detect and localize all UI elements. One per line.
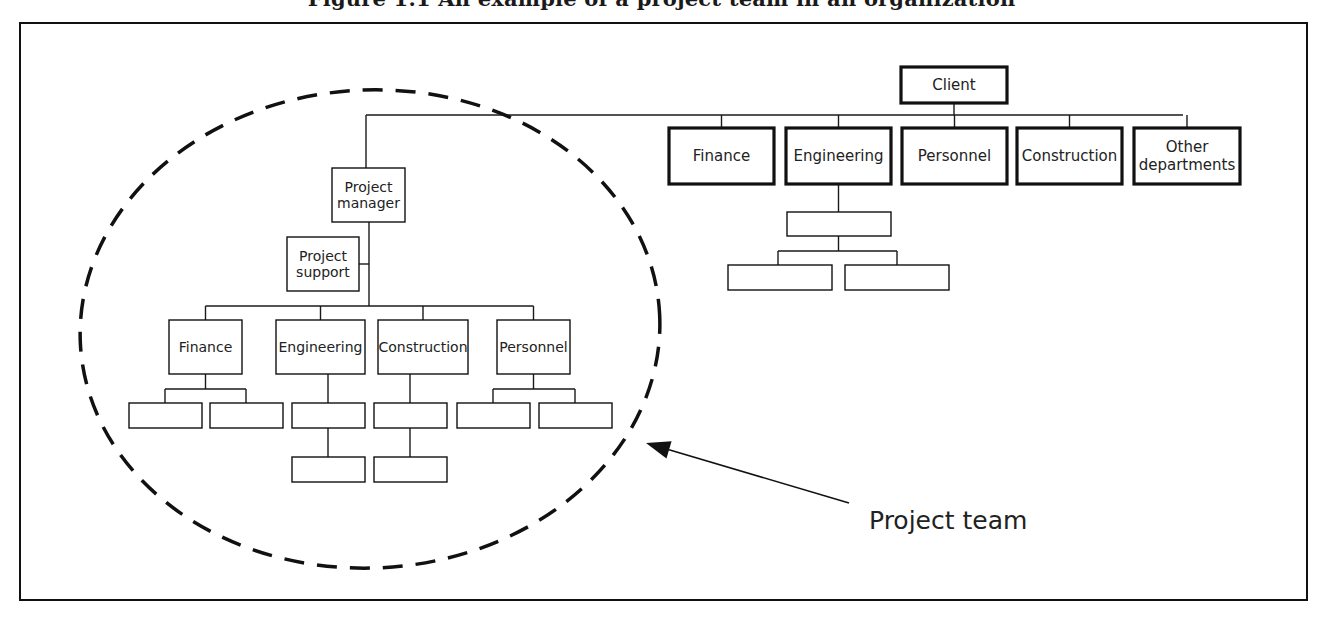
project-team-group: ProjectmanagerProjectsupportFinanceEngin…	[129, 168, 612, 482]
dept-personnel-node: Personnel	[902, 128, 1007, 184]
dept-finance-node-label: Finance	[693, 147, 750, 165]
team-construction-node: Construction	[378, 320, 468, 374]
client-node: Client	[901, 67, 1007, 103]
team-sub-unit-7-box	[457, 403, 530, 428]
team-engineering-node-label: Engineering	[279, 339, 363, 355]
dept-construction-node: Construction	[1017, 128, 1122, 184]
dept-engineering-node: Engineering	[786, 128, 891, 184]
dept-other-node: Otherdepartments	[1134, 128, 1240, 184]
project-manager-node-label: manager	[337, 195, 400, 211]
team-sub-unit-5	[374, 403, 447, 428]
team-sub-unit-2	[210, 403, 283, 428]
team-personnel-node-label: Personnel	[499, 339, 567, 355]
project-support-node-label: Project	[299, 248, 347, 264]
team-sub-unit-7	[457, 403, 530, 428]
team-sub-unit-6	[374, 457, 447, 482]
team-sub-unit-3-box	[292, 403, 365, 428]
eng-sub-2	[728, 265, 832, 290]
team-engineering-node: Engineering	[276, 320, 365, 374]
project-support-node: Projectsupport	[287, 237, 359, 291]
dept-engineering-node-label: Engineering	[794, 147, 884, 165]
team-personnel-node: Personnel	[497, 320, 570, 374]
project-team-pointer	[646, 441, 849, 503]
project-team-boundary	[68, 75, 672, 583]
team-sub-unit-5-box	[374, 403, 447, 428]
dept-other-node-label: departments	[1139, 156, 1236, 174]
arrow-line	[669, 450, 849, 503]
team-sub-unit-1	[129, 403, 202, 428]
project-manager-node-label: Project	[345, 179, 393, 195]
dept-personnel-node-label: Personnel	[918, 147, 991, 165]
eng-sub-2-box	[728, 265, 832, 290]
team-finance-node-label: Finance	[179, 339, 233, 355]
team-sub-unit-3	[292, 403, 365, 428]
org-chart-diagram: ClientFinanceEngineeringPersonnelConstru…	[0, 0, 1323, 620]
eng-sub-1-box	[787, 212, 891, 236]
team-construction-node-label: Construction	[378, 339, 467, 355]
eng-sub-1	[787, 212, 891, 236]
team-sub-unit-4	[292, 457, 365, 482]
client-organization: ClientFinanceEngineeringPersonnelConstru…	[669, 67, 1240, 290]
eng-sub-3	[845, 265, 949, 290]
team-finance-node: Finance	[169, 320, 242, 374]
team-sub-unit-8	[539, 403, 612, 428]
client-node-label: Client	[932, 76, 976, 94]
arrow-head-icon	[646, 441, 672, 458]
team-sub-unit-8-box	[539, 403, 612, 428]
project-support-node-label: support	[296, 264, 350, 280]
project-team-label: Project team	[869, 506, 1027, 535]
team-sub-unit-4-box	[292, 457, 365, 482]
project-manager-node: Projectmanager	[332, 168, 405, 222]
team-sub-unit-6-box	[374, 457, 447, 482]
dept-finance-node: Finance	[669, 128, 774, 184]
team-sub-unit-2-box	[210, 403, 283, 428]
eng-sub-3-box	[845, 265, 949, 290]
team-sub-unit-1-box	[129, 403, 202, 428]
dept-other-node-label: Other	[1166, 138, 1209, 156]
dept-construction-node-label: Construction	[1022, 147, 1118, 165]
